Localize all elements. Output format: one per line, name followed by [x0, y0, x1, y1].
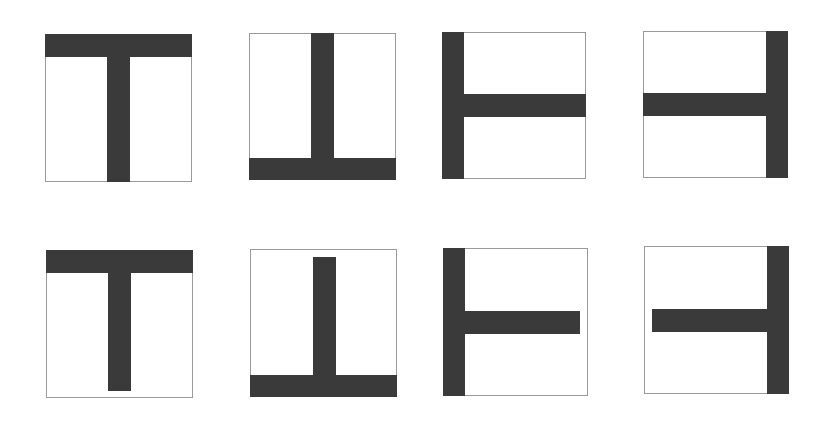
crossbar	[766, 31, 788, 178]
crossbar	[46, 250, 193, 273]
t-shape-left-touching: rotated T facing right	[442, 32, 586, 179]
t-shape-up-gap: T	[46, 250, 193, 398]
t-shape-right-touching: rotated T facing left	[643, 31, 788, 178]
stem	[107, 56, 130, 182]
t-shape-down-gap: inverted T	[250, 249, 397, 397]
crossbar	[45, 34, 192, 57]
stem	[311, 33, 334, 159]
t-shape-up-touching: T	[45, 34, 192, 182]
t-shape-left-gap: rotated T facing right	[443, 248, 588, 396]
stem	[464, 311, 580, 334]
stem	[108, 272, 131, 391]
t-shape-down-touching: inverted T	[249, 33, 396, 180]
stem	[463, 94, 586, 117]
crossbar	[443, 248, 465, 396]
t-shape-right-gap: rotated T facing left	[644, 246, 789, 394]
stem	[652, 309, 769, 332]
crossbar	[250, 375, 397, 397]
crossbar	[249, 158, 396, 180]
stem	[643, 93, 767, 116]
stem	[313, 257, 336, 377]
crossbar	[442, 32, 464, 179]
crossbar	[767, 246, 789, 394]
